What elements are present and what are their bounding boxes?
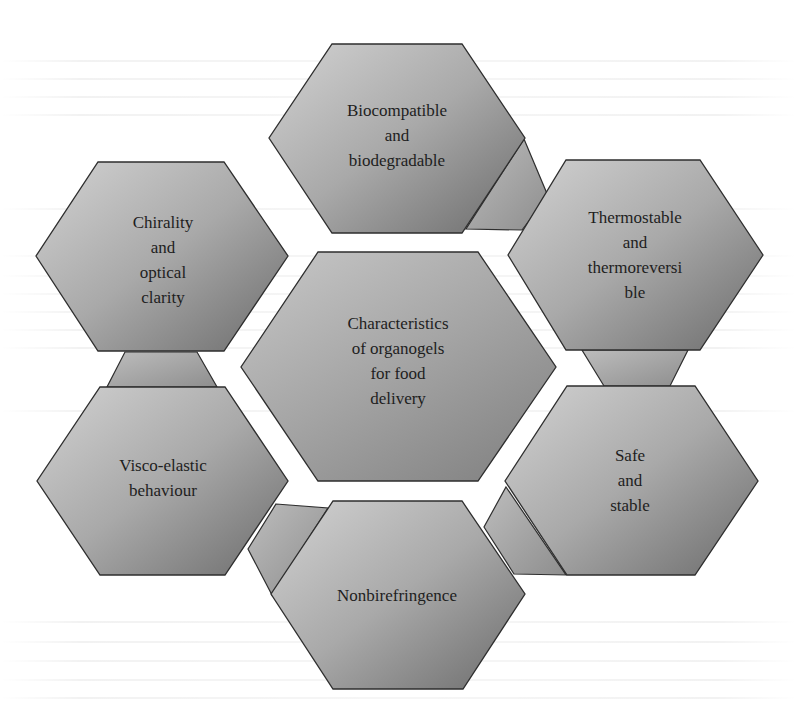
- node-label-bottom: Nonbirefringence: [282, 580, 512, 610]
- node-label-bottom-right: Safe and stable: [515, 415, 745, 545]
- connector-bottom-left-to-top-left: [107, 352, 217, 387]
- node-label-top: Biocompatible and biodegradable: [282, 70, 512, 200]
- center-label: Characteristics of organogels for food d…: [283, 305, 513, 417]
- node-label-top-right: Thermostable and thermoreversi ble: [520, 195, 750, 315]
- connector-top-right-to-bottom-right: [582, 350, 688, 386]
- node-label-bottom-left: Visco-elastic behaviour: [48, 438, 278, 518]
- node-label-top-left: Chirality and optical clarity: [48, 205, 278, 315]
